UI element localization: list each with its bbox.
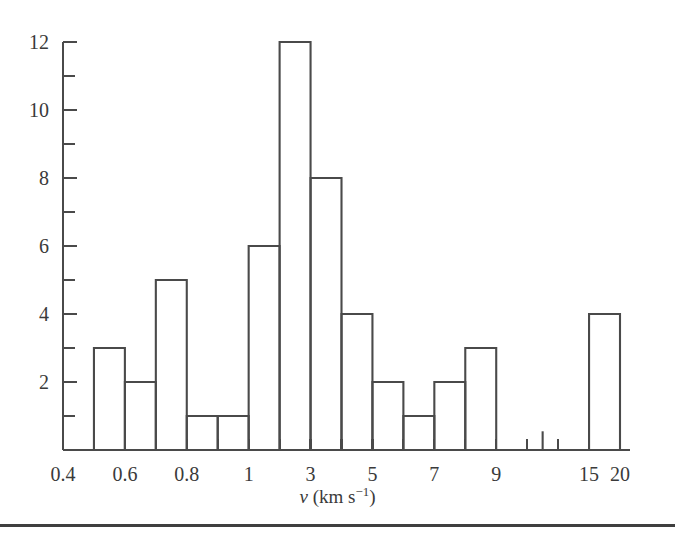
histogram-bar: [218, 416, 249, 450]
x-tick-label: 3: [306, 464, 316, 484]
axes-group: [63, 42, 630, 450]
histogram-bar: [156, 280, 187, 450]
units-open: (km s: [308, 486, 356, 507]
histogram-bar: [94, 348, 125, 450]
x-tick-label: 5: [367, 464, 377, 484]
histogram-bar: [465, 348, 496, 450]
y-tick-label: 8: [0, 168, 49, 188]
histogram-bar: [434, 382, 465, 450]
units-exponent: −1: [355, 484, 369, 499]
y-tick-label: 6: [0, 236, 49, 256]
x-tick-label: 1: [244, 464, 254, 484]
histogram-bar: [311, 178, 342, 450]
histogram-plot: [0, 0, 675, 550]
nu-symbol: ν: [300, 486, 308, 507]
units-close: ): [369, 486, 375, 507]
footer-rule: [0, 524, 675, 527]
x-tick-label: 15: [579, 464, 599, 484]
y-tick-label: 10: [0, 100, 49, 120]
y-tick-label: 12: [0, 32, 49, 52]
histogram-bar: [372, 382, 403, 450]
bars-group: [94, 42, 620, 450]
x-tick-label: 20: [610, 464, 630, 484]
x-tick-label: 0.4: [51, 464, 76, 484]
histogram-bar: [342, 314, 373, 450]
x-tick-label: 0.6: [112, 464, 137, 484]
x-tick-label: 9: [491, 464, 501, 484]
histogram-bar: [403, 416, 434, 450]
histogram-bar: [125, 382, 156, 450]
histogram-bar: [187, 416, 218, 450]
x-tick-label: 7: [429, 464, 439, 484]
y-tick-label: 4: [0, 304, 49, 324]
x-axis-title: ν (km s−1): [0, 484, 675, 508]
y-tick-label: 2: [0, 372, 49, 392]
x-tick-label: 0.8: [174, 464, 199, 484]
histogram-bar: [589, 314, 620, 450]
histogram-bar: [249, 246, 280, 450]
histogram-figure: 246810120.40.60.8135791520 ν (km s−1): [0, 0, 675, 550]
histogram-bar: [280, 42, 311, 450]
